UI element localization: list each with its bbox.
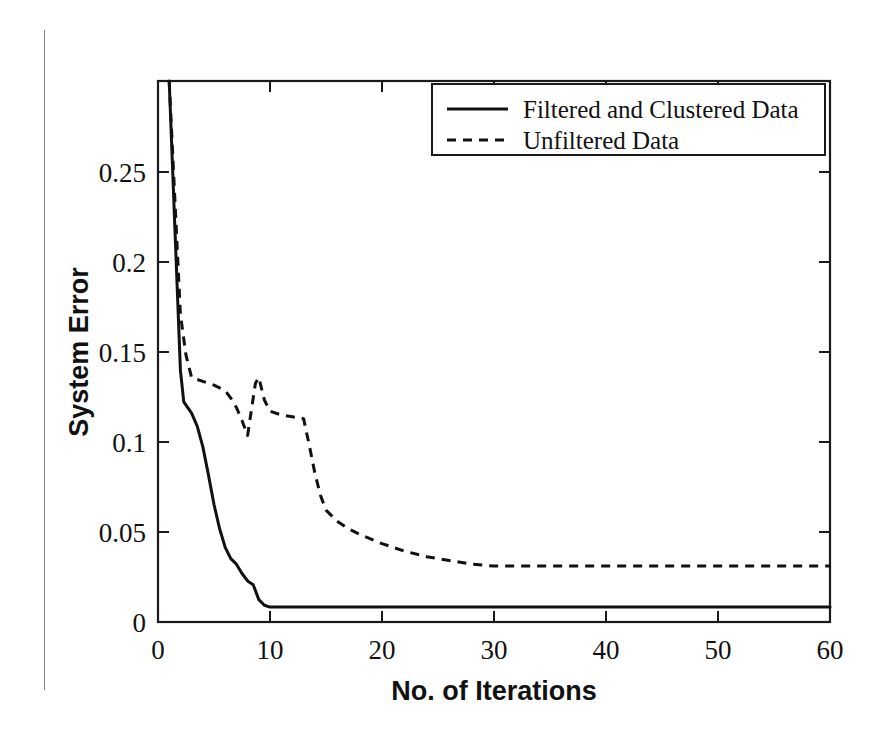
legend-label-1: Unfiltered Data <box>523 127 679 154</box>
y-axis-tick-labels: 0.25 0.2 0.15 0.1 0.05 0 <box>99 158 146 638</box>
y-tick-label: 0.15 <box>99 338 146 368</box>
x-tick-label: 50 <box>705 635 732 665</box>
y-tick-label: 0.1 <box>112 428 146 458</box>
line-chart: 0.25 0.2 0.15 0.1 0.05 0 0 10 20 30 40 5… <box>0 0 880 734</box>
figure-root: 0.25 0.2 0.15 0.1 0.05 0 0 10 20 30 40 5… <box>0 0 880 734</box>
y-tick-label: 0.05 <box>99 518 146 548</box>
y-tick-label: 0.25 <box>99 158 146 188</box>
series-line-filtered-and-clustered-data <box>169 81 830 607</box>
plot-frame <box>158 81 830 622</box>
y-tick-marks <box>158 172 830 622</box>
x-axis-tick-labels: 0 10 20 30 40 50 60 <box>151 635 843 665</box>
x-tick-label: 30 <box>481 635 508 665</box>
legend: Filtered and Clustered Data Unfiltered D… <box>432 84 825 155</box>
y-tick-label: 0 <box>133 608 147 638</box>
legend-label-0: Filtered and Clustered Data <box>523 96 799 123</box>
y-tick-label: 0.2 <box>112 248 146 278</box>
x-tick-label: 10 <box>257 635 284 665</box>
x-tick-label: 0 <box>151 635 165 665</box>
x-axis-title: No. of Iterations <box>391 676 597 706</box>
x-tick-label: 40 <box>593 635 620 665</box>
x-tick-label: 60 <box>817 635 844 665</box>
y-axis-title: System Error <box>64 267 94 437</box>
x-tick-marks <box>158 81 830 622</box>
x-tick-label: 20 <box>369 635 396 665</box>
